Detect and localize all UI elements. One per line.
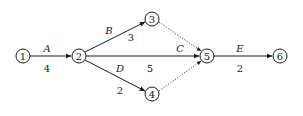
node-1-label: 1 bbox=[20, 51, 26, 62]
duration-label-c: 5 bbox=[147, 63, 153, 74]
activity-label-b: B bbox=[104, 25, 112, 36]
dummy-edge-4-5 bbox=[159, 61, 201, 91]
edge-b: B 3 bbox=[85, 22, 145, 52]
node-3-label: 3 bbox=[149, 14, 155, 25]
activity-label-c: C bbox=[176, 43, 184, 54]
activity-label-e: E bbox=[235, 43, 244, 54]
edge-d: D 2 bbox=[85, 60, 145, 96]
edge-a: A 4 bbox=[30, 43, 71, 74]
activity-label-a: A bbox=[42, 43, 50, 54]
duration-label-d: 2 bbox=[117, 85, 123, 96]
node-4-label: 4 bbox=[149, 89, 155, 100]
duration-label-e: 2 bbox=[237, 63, 243, 74]
network-diagram: A 4 B 3 C 5 D 2 E 2 bbox=[0, 0, 303, 116]
node-5-label: 5 bbox=[204, 51, 210, 62]
edge-e: E 2 bbox=[214, 43, 272, 74]
duration-label-a: 4 bbox=[44, 63, 50, 74]
node-2: 2 bbox=[72, 49, 86, 63]
activity-label-d: D bbox=[115, 63, 124, 74]
node-2-label: 2 bbox=[76, 51, 82, 62]
node-1: 1 bbox=[16, 49, 30, 63]
node-4: 4 bbox=[145, 87, 159, 101]
node-3: 3 bbox=[145, 12, 159, 26]
node-5: 5 bbox=[200, 49, 214, 63]
duration-label-b: 3 bbox=[128, 32, 134, 43]
node-6: 6 bbox=[273, 49, 287, 63]
node-6-label: 6 bbox=[277, 51, 283, 62]
